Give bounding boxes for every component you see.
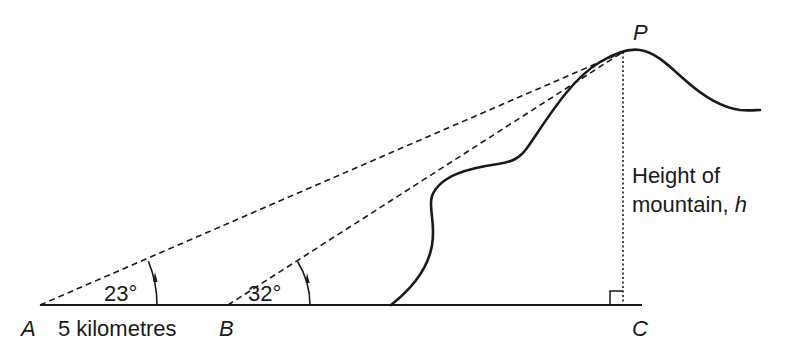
angle-label-b: 32° — [248, 281, 281, 306]
height-label-line1: Height of — [632, 163, 721, 188]
point-label-b: B — [219, 316, 234, 341]
angle-label-a: 23° — [104, 281, 137, 306]
mountain-elevation-diagram: 23° 32° A 5 kilometres B C P Height of m… — [0, 0, 786, 352]
right-angle-marker — [610, 291, 623, 305]
angle-arc-a — [148, 261, 157, 305]
distance-label: 5 kilometres — [58, 316, 177, 341]
point-label-a: A — [19, 316, 36, 341]
point-label-c: C — [632, 316, 648, 341]
angle-arc-b — [298, 262, 311, 306]
height-label-line2: mountain, h — [632, 192, 747, 217]
height-variable: h — [735, 192, 747, 217]
height-label-text: mountain, — [632, 192, 735, 217]
sight-line-from-a — [40, 52, 623, 305]
point-label-p: P — [633, 20, 648, 45]
